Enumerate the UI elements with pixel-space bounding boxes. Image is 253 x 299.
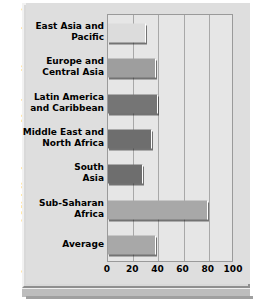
x-axis-tick-labels: 020406080100	[107, 264, 233, 278]
bar	[108, 200, 208, 219]
category-label: Average	[24, 227, 104, 262]
category-label-line: and Caribbean	[30, 103, 104, 114]
bar-row	[108, 50, 232, 85]
bar	[108, 94, 158, 113]
panel-shadow-shelf	[22, 288, 250, 297]
category-label-line: Asia	[83, 173, 104, 184]
category-label-line: South	[74, 162, 104, 173]
bar-row	[108, 121, 232, 156]
category-label-line: Central Asia	[42, 67, 104, 78]
x-tick-label-20: 20	[126, 264, 139, 274]
category-label: Middle East andNorth Africa	[24, 120, 104, 155]
chart-figure: Low- and Middle-Income Nations (by regio…	[0, 0, 253, 299]
category-label-line: Africa	[74, 209, 104, 220]
category-label-list: East Asia andPacificEurope andCentral As…	[24, 14, 104, 262]
bar	[108, 129, 152, 148]
x-tick-label-40: 40	[151, 264, 164, 274]
category-label-line: Sub-Saharan	[39, 198, 104, 209]
category-label-line: East Asia and	[35, 21, 104, 32]
bar-row	[108, 86, 232, 121]
plot-area	[107, 14, 233, 262]
bar	[108, 236, 156, 255]
x-tick-label-100: 100	[224, 264, 243, 274]
category-label-line: Middle East and	[23, 127, 104, 138]
bar-series	[108, 15, 232, 261]
category-label: East Asia andPacific	[24, 14, 104, 49]
bar	[108, 59, 156, 78]
category-label-line: Pacific	[71, 32, 104, 43]
category-label-line: Europe and	[46, 56, 104, 67]
category-label-line: Average	[62, 239, 104, 250]
x-tick-label-80: 80	[202, 264, 215, 274]
category-label: SouthAsia	[24, 156, 104, 191]
x-tick-label-0: 0	[104, 264, 110, 274]
bar-row	[108, 157, 232, 192]
category-label-line: Latin America	[34, 92, 104, 103]
category-label: Sub-SaharanAfrica	[24, 191, 104, 226]
category-label-line: North Africa	[42, 138, 104, 149]
category-label: Europe andCentral Asia	[24, 49, 104, 84]
bar-row	[108, 228, 232, 263]
bar	[108, 23, 146, 42]
bar-row	[108, 15, 232, 50]
bar	[108, 165, 143, 184]
x-tick-label-60: 60	[176, 264, 189, 274]
bar-row	[108, 192, 232, 227]
category-label: Latin Americaand Caribbean	[24, 85, 104, 120]
